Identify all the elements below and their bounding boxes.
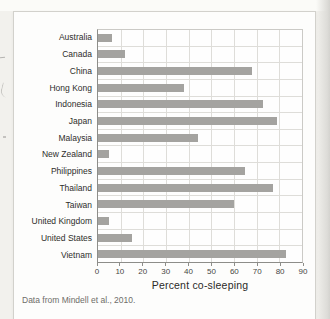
bar (98, 234, 132, 242)
bar (98, 134, 198, 142)
country-label: Indonesia (14, 96, 92, 113)
tick-label: 20 (138, 267, 147, 276)
bar-row (98, 213, 302, 230)
bar-row (98, 130, 302, 147)
page-edge-artifact (0, 57, 5, 59)
x-axis-ticks: 0102030405060708090 (97, 263, 303, 278)
tick-label: 70 (253, 267, 262, 276)
plot-area (97, 29, 303, 263)
page-edge-artifact (0, 82, 10, 97)
bar (98, 250, 286, 258)
source-caption: Data from Mindell et al., 2010. (22, 295, 135, 305)
bar (98, 167, 245, 175)
bar-row (98, 97, 302, 114)
bar-row (98, 196, 302, 213)
tick-label: 50 (207, 267, 216, 276)
bar-rows (98, 30, 302, 262)
country-label: Canada (14, 46, 92, 63)
bar-row (98, 230, 302, 247)
bar (98, 34, 112, 42)
bar-row (98, 80, 302, 97)
bar (98, 150, 109, 158)
bar-row (98, 180, 302, 197)
tick-mark (188, 263, 189, 266)
page-edge-artifact (3, 136, 6, 138)
country-label: Hong Kong (14, 79, 92, 96)
bar-row (98, 246, 302, 262)
country-label: Thailand (14, 179, 92, 196)
bar (98, 117, 277, 125)
y-axis-labels: AustraliaCanadaChinaHong KongIndonesiaJa… (14, 29, 92, 263)
bar (98, 184, 273, 192)
country-label: China (14, 62, 92, 79)
tick-mark (257, 263, 258, 266)
bar-row (98, 163, 302, 180)
country-label: Vietnam (14, 246, 92, 263)
tick-label: 0 (95, 267, 99, 276)
bar (98, 200, 234, 208)
bar-row (98, 30, 302, 47)
tick-label: 30 (161, 267, 170, 276)
bar (98, 84, 184, 92)
bar-row (98, 113, 302, 130)
country-label: United States (14, 230, 92, 247)
country-label: Taiwan (14, 196, 92, 213)
country-label: Philippines (14, 163, 92, 180)
page-top-margin (0, 0, 330, 11)
tick-mark (165, 263, 166, 266)
bar (98, 217, 109, 225)
tick-mark (234, 263, 235, 266)
country-label: New Zealand (14, 146, 92, 163)
tick-label: 10 (115, 267, 124, 276)
bar-row (98, 63, 302, 80)
figure-panel: AustraliaCanadaChinaHong KongIndonesiaJa… (13, 11, 316, 319)
bar-row (98, 146, 302, 163)
tick-mark (97, 263, 98, 266)
x-axis-title: Percent co-sleeping (97, 279, 303, 291)
bar (98, 100, 263, 108)
page-edge-shadow (316, 0, 330, 319)
country-label: Australia (14, 29, 92, 46)
bar (98, 50, 125, 58)
bar (98, 67, 252, 75)
bar-row (98, 47, 302, 64)
tick-label: 40 (184, 267, 193, 276)
tick-label: 60 (230, 267, 239, 276)
tick-mark (142, 263, 143, 266)
tick-label: 90 (299, 267, 308, 276)
tick-mark (119, 263, 120, 266)
tick-mark (280, 263, 281, 266)
country-label: Malaysia (14, 129, 92, 146)
tick-label: 80 (276, 267, 285, 276)
country-label: Japan (14, 113, 92, 130)
tick-mark (303, 263, 304, 266)
tick-mark (211, 263, 212, 266)
country-label: United Kingdom (14, 213, 92, 230)
